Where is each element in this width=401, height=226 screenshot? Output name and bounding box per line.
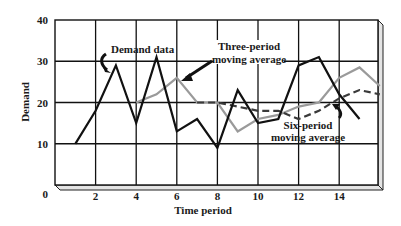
x-axis-title: Time period: [174, 204, 232, 216]
annotation-six-period-line2: moving average: [271, 131, 345, 143]
moving-average-chart: Demand data Three-period moving average …: [0, 0, 401, 226]
x-tick-label: 4: [133, 190, 139, 202]
x-tick-label: 10: [253, 190, 265, 202]
x-tick-label: 12: [293, 190, 305, 202]
y-tick-label: 20: [37, 97, 49, 109]
annotation-demand-data: Demand data: [111, 43, 175, 55]
x-tick-label: 8: [215, 190, 221, 202]
y-tick-label: 40: [37, 14, 49, 26]
x-tick-label: 6: [174, 190, 180, 202]
y-axis-title: Demand: [19, 82, 31, 122]
y-tick-label: 10: [37, 138, 49, 150]
annotation-three-period-line1: Three-period: [218, 40, 280, 52]
x-tick-label: 14: [334, 190, 346, 202]
annotation-six-period-line1: Six-period: [284, 119, 333, 131]
right-bevel: [378, 20, 383, 190]
y-tick-label: 30: [37, 55, 49, 67]
annotation-three-period-line2: moving average: [212, 53, 286, 65]
x-tick-label: 2: [93, 190, 99, 202]
y-tick-label: 0: [43, 188, 49, 200]
